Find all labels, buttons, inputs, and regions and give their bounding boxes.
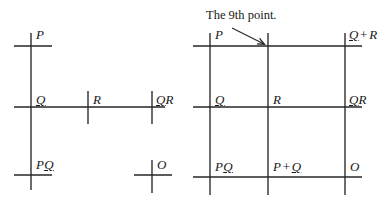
ninth-point-annotation: The 9th point. xyxy=(206,9,276,22)
label-right-pq: PQ xyxy=(215,160,233,173)
label-left-q: Q xyxy=(36,93,46,106)
label-right-p: P xyxy=(215,28,223,41)
label-right-q-plus-r: Q+R xyxy=(349,28,377,41)
label-left-pq: PQ xyxy=(36,158,54,171)
label-right-qr: QR xyxy=(349,93,367,106)
label-right-r: R xyxy=(273,93,281,106)
label-left-p: P xyxy=(36,28,44,41)
figure-linework xyxy=(0,0,381,203)
label-left-r: R xyxy=(93,93,101,106)
label-left-qr: QR xyxy=(156,93,174,106)
ninth-point-arrow xyxy=(232,28,264,44)
label-right-p-plus-q: P+Q xyxy=(273,160,301,173)
label-right-o: O xyxy=(350,160,360,173)
label-left-o: O xyxy=(157,158,167,171)
label-right-q: Q xyxy=(215,93,225,106)
nine-point-figure: The 9th point. P Q R QR PQ O P Q+R Q R Q… xyxy=(0,0,381,203)
